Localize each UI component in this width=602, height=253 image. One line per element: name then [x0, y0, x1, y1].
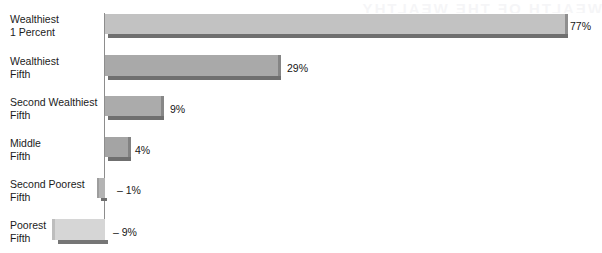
value-label: 29%: [287, 62, 308, 74]
bar-face: [105, 137, 128, 157]
value-label: 77%: [570, 20, 591, 32]
category-label: Second Poorest Fifth: [10, 178, 85, 203]
value-label: – 1%: [117, 184, 141, 196]
bar-face: [55, 219, 105, 240]
bar-shadow: [108, 157, 131, 161]
bar-side: [278, 55, 281, 76]
bar-shadow: [108, 116, 164, 120]
bar-second-poorest-fifth: [99, 178, 105, 198]
value-label: 9%: [170, 103, 185, 115]
category-label: Second Wealthiest Fifth: [10, 96, 97, 121]
bar-side: [52, 219, 55, 240]
category-label: Wealthiest 1 Percent: [10, 13, 59, 38]
value-label: – 9%: [113, 226, 137, 238]
zero-axis-line: [104, 13, 105, 244]
bar-shadow: [101, 198, 107, 201]
bar-shadow: [108, 34, 568, 38]
bar-side: [128, 137, 131, 157]
category-label: Poorest Fifth: [10, 219, 46, 244]
bar-wealthiest-fifth: [105, 55, 278, 76]
bar-face: [105, 55, 278, 76]
bar-side: [161, 96, 164, 116]
bar-shadow: [108, 76, 281, 80]
category-label: Wealthiest Fifth: [10, 55, 59, 80]
category-label: Middle Fifth: [10, 137, 41, 162]
wealth-distribution-bar-chart: Wealthiest 1 Percent 77% Wealthiest Fift…: [0, 0, 602, 253]
bar-shadow: [58, 240, 108, 244]
bar-face: [105, 14, 565, 34]
bar-middle-fifth: [105, 137, 128, 157]
bar-poorest-fifth: [55, 219, 105, 240]
bar-second-wealthiest-fifth: [105, 96, 161, 116]
bar-wealthiest-1-percent: [105, 14, 565, 34]
bar-side: [565, 14, 568, 34]
bar-side: [97, 178, 99, 198]
bar-face: [105, 96, 161, 116]
value-label: 4%: [135, 144, 150, 156]
bar-face: [99, 178, 105, 198]
